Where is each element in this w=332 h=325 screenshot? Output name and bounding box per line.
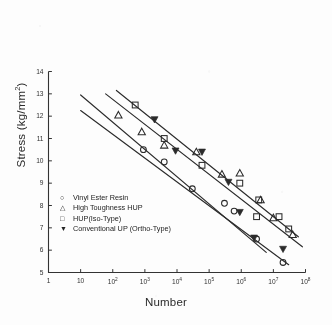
legend-item-label: High Toughness HUP [73, 203, 143, 213]
y-axis-title: Stress (kg/mm2) [13, 65, 27, 185]
y-axis-tick-label: 8 [28, 202, 44, 209]
legend-item-3: ▼Conventional UP (Ortho-Type) [60, 224, 171, 234]
legend-marker-icon: ▼ [60, 224, 73, 234]
y-axis-tick-label: 11 [28, 135, 44, 142]
y-axis-tick-label: 12 [28, 112, 44, 119]
chart-legend: ○Vinyl Ester Resin△High Toughness HUP□HU… [60, 193, 171, 234]
axis-spines [49, 72, 306, 273]
series-3-markers [151, 117, 286, 253]
legend-item-label: HUP(Iso-Type) [73, 214, 121, 224]
x-axis-tick-label: 10 [70, 277, 92, 284]
legend-item-1: △High Toughness HUP [60, 203, 171, 213]
x-axis-title: Number [0, 296, 332, 308]
legend-marker-icon: △ [60, 203, 73, 213]
x-axis-tick-label: 102 [102, 277, 124, 285]
series-fit-lines [81, 90, 303, 264]
y-axis-title-tail: ) [15, 82, 27, 86]
chart-figure: Stress (kg/mm2) Number 567891011121314 1… [0, 0, 332, 325]
y-axis-tick-label: 14 [28, 68, 44, 75]
y-axis-tick-label: 9 [28, 179, 44, 186]
y-axis-tick-label: 10 [28, 157, 44, 164]
y-axis-tick-label: 7 [28, 224, 44, 231]
axis-ticks [49, 72, 306, 273]
y-axis-tick-label: 6 [28, 246, 44, 253]
x-axis-tick-label: 105 [198, 277, 220, 285]
x-axis-tick-label: 106 [230, 277, 252, 285]
legend-marker-icon: ○ [60, 193, 73, 203]
legend-marker-icon: □ [60, 214, 73, 224]
legend-item-label: Vinyl Ester Resin [73, 193, 128, 203]
y-axis-title-exponent: 2 [13, 86, 22, 90]
x-axis-tick-label: 108 [295, 277, 317, 285]
x-axis-tick-label: 1 [38, 277, 60, 284]
x-axis-tick-label: 104 [166, 277, 188, 285]
x-axis-tick-label: 103 [134, 277, 156, 285]
series-markers [115, 102, 297, 265]
y-axis-title-text: Stress (kg/mm [15, 91, 27, 168]
legend-item-label: Conventional UP (Ortho-Type) [73, 224, 171, 234]
legend-item-0: ○Vinyl Ester Resin [60, 193, 171, 203]
x-axis-tick-label: 107 [262, 277, 284, 285]
legend-item-2: □HUP(Iso-Type) [60, 214, 171, 224]
y-axis-tick-label: 13 [28, 90, 44, 97]
y-axis-tick-label: 5 [28, 269, 44, 276]
